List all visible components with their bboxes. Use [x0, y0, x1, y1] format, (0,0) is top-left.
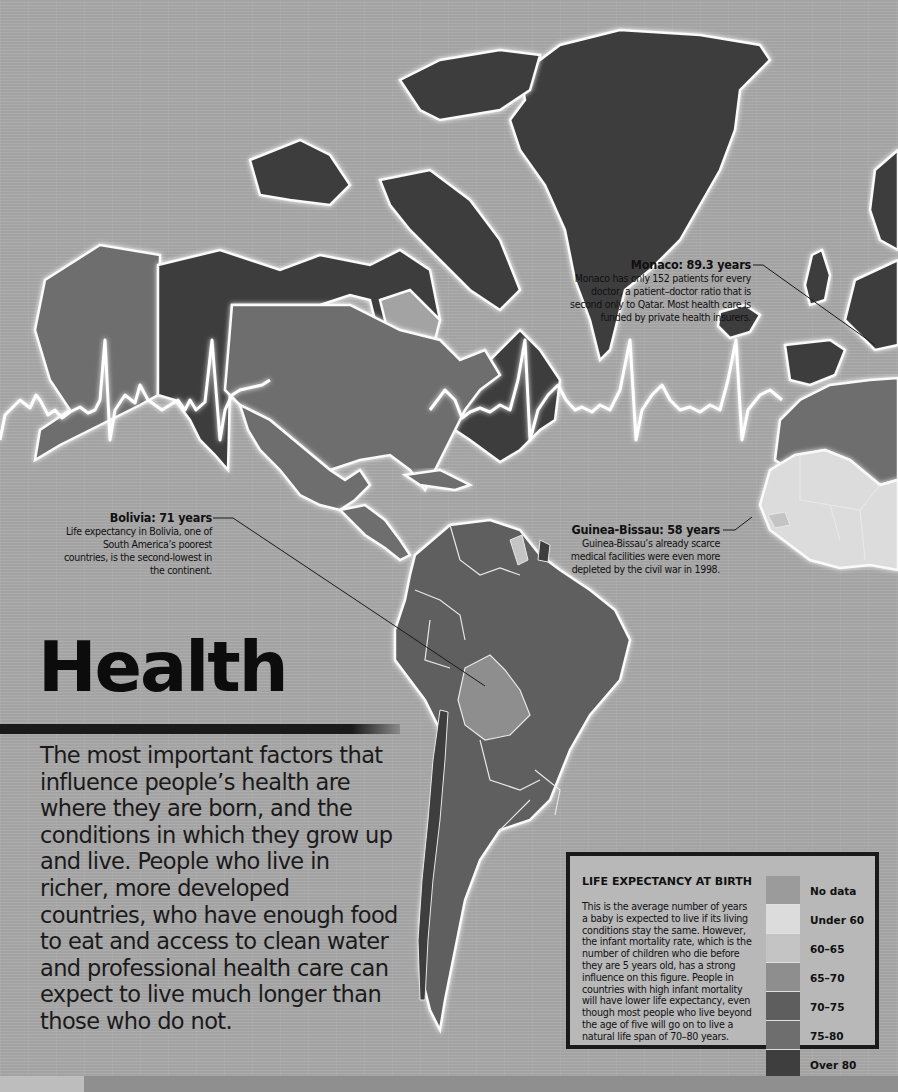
legend-label: 60–65	[810, 943, 844, 955]
legend-box: LIFE EXPECTANCY AT BIRTH This is the ave…	[566, 852, 879, 1049]
legend-swatch-no-data	[766, 876, 800, 905]
callout-guinea-bissau: Guinea-Bissau: 58 years Guinea-Bissau’s …	[560, 522, 720, 576]
footer-strip-dark	[84, 1076, 898, 1092]
western-europe	[845, 260, 898, 350]
callout-bolivia: Bolivia: 71 years Life expectancy in Bol…	[60, 510, 212, 577]
legend-item: 70–75	[766, 992, 864, 1021]
arctic-islands-2	[250, 140, 350, 205]
footer-strip-light	[0, 1076, 84, 1092]
scandinavia	[870, 150, 898, 250]
callout-monaco-text: Monaco has only 152 patients for every d…	[565, 272, 751, 324]
page-title: Health	[38, 632, 287, 702]
uk	[805, 250, 830, 305]
french-guiana	[538, 540, 550, 562]
legend-swatch-65-70	[766, 963, 800, 992]
legend-swatch-70-75	[766, 992, 800, 1021]
legend-item: 65–70	[766, 963, 864, 992]
legend-swatch-under-60	[766, 905, 800, 934]
callout-guinea-bissau-text: Guinea-Bissau’s already scarce medical f…	[560, 537, 720, 576]
callout-bolivia-text: Life expectancy in Bolivia, one of South…	[60, 525, 212, 577]
alaska	[35, 245, 160, 460]
legend-label: No data	[810, 885, 856, 897]
callout-monaco: Monaco: 89.3 years Monaco has only 152 p…	[565, 257, 751, 324]
intro-paragraph: The most important factors that influenc…	[40, 742, 400, 1035]
legend-label: Under 60	[810, 914, 864, 926]
legend-item: 60–65	[766, 934, 864, 963]
central-america	[340, 505, 410, 560]
legend-item: Over 80	[766, 1050, 864, 1079]
legend-item: Under 60	[766, 905, 864, 934]
iberia	[785, 340, 845, 385]
legend-title: LIFE EXPECTANCY AT BIRTH	[582, 876, 752, 889]
legend-description: This is the average number of years a ba…	[582, 901, 754, 1043]
callout-guinea-bissau-title: Guinea-Bissau: 58 years	[560, 522, 720, 537]
cuba	[405, 470, 470, 490]
legend-item: 75-80	[766, 1021, 864, 1050]
usa	[225, 305, 500, 490]
callout-monaco-title: Monaco: 89.3 years	[565, 257, 751, 272]
callout-bolivia-title: Bolivia: 71 years	[60, 510, 212, 525]
legend-swatch-75-80	[766, 1021, 800, 1050]
legend-swatch-60-65	[766, 934, 800, 963]
legend-item: No data	[766, 876, 864, 905]
legend-label: Over 80	[810, 1059, 856, 1071]
legend-swatches: No data Under 60 60–65 65–70 70–75 75-80…	[766, 876, 864, 1079]
legend-label: 75-80	[810, 1030, 844, 1042]
footer-strip	[0, 1076, 898, 1092]
legend-swatch-over-80	[766, 1050, 800, 1079]
title-underline	[0, 724, 400, 734]
legend-label: 65–70	[810, 972, 844, 984]
guinea-bissau-leader	[723, 517, 752, 530]
legend-label: 70–75	[810, 1001, 844, 1013]
